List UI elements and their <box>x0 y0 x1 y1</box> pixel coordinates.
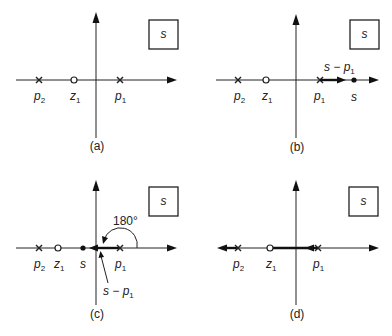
zero-z1 <box>263 77 269 83</box>
root-locus-figure: s p2 z1 p1 (a) s s − p1 p2 z1 p1 <box>0 0 392 336</box>
callout-arrow-icon <box>99 251 105 258</box>
imag-axis-arrow-icon <box>93 12 100 23</box>
label-angle: 180° <box>113 214 138 228</box>
panel-a: s p2 z1 p1 (a) <box>16 12 178 153</box>
angle-arc-arrow-icon <box>102 236 108 244</box>
label-p2: p2 <box>33 89 46 105</box>
point-s <box>351 77 356 82</box>
real-axis-arrow-icon <box>167 77 177 84</box>
label-vector: s − p1 <box>324 60 355 76</box>
label-z1: z1 <box>261 89 273 105</box>
label-p1: p1 <box>114 89 127 105</box>
point-s <box>80 245 85 250</box>
label-p2: p2 <box>33 257 46 273</box>
label-s: s <box>80 257 86 271</box>
real-axis-arrow-icon <box>167 245 177 252</box>
caption-b: (b) <box>290 140 305 154</box>
caption-c: (c) <box>90 307 104 321</box>
vector-arrow-icon <box>89 245 98 252</box>
label-z1: z1 <box>69 89 81 105</box>
imag-axis-arrow-icon <box>293 180 300 191</box>
real-axis-arrow-icon <box>369 245 379 252</box>
callout-line <box>101 256 108 283</box>
label-p1: p1 <box>114 257 127 273</box>
panel-c: s 180° p2 z1 s p1 s − p1 (c) <box>16 180 178 321</box>
s-plane-label: s <box>161 27 167 41</box>
s-plane-label: s <box>161 194 167 208</box>
locus-arrow-middle-icon <box>305 245 314 252</box>
panel-b: s s − p1 p2 z1 p1 s (b) <box>216 14 379 154</box>
imag-axis-arrow-icon <box>93 180 100 191</box>
label-p2: p2 <box>233 89 246 105</box>
label-p1: p1 <box>312 257 325 273</box>
label-p2: p2 <box>232 257 245 273</box>
imag-axis-arrow-icon <box>293 14 300 25</box>
label-z1: z1 <box>265 257 277 273</box>
real-axis-arrow-icon <box>369 77 379 84</box>
panel-d: s p2 z1 p1 (d) <box>217 180 379 321</box>
label-z1: z1 <box>53 257 65 273</box>
label-p1: p1 <box>313 89 326 105</box>
label-vector: s − p1 <box>103 284 134 300</box>
caption-a: (a) <box>90 139 105 153</box>
label-s: s <box>351 90 357 104</box>
zero-z1 <box>55 245 61 251</box>
s-plane-label: s <box>362 27 368 41</box>
locus-arrow-left-icon <box>217 245 227 252</box>
zero-z1 <box>267 245 273 251</box>
vector-arrow-icon <box>337 77 346 84</box>
zero-z1 <box>71 77 77 83</box>
caption-d: (d) <box>290 307 305 321</box>
s-plane-label: s <box>361 194 367 208</box>
angle-arc <box>104 228 137 248</box>
